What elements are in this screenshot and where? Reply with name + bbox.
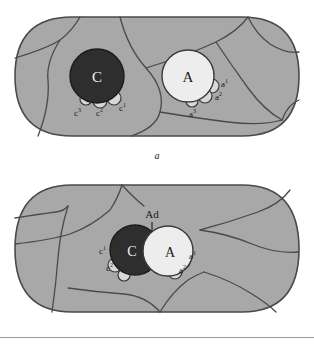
panel-b: Ad C A c1 c (0, 170, 314, 330)
cell-c-label-b: C (127, 244, 136, 259)
adhesion-label: Ad (145, 208, 159, 220)
figure-container: C A c3 c2 c1 a1 a2 a3 a (0, 0, 314, 345)
panel-a: C A c3 c2 c1 a1 a2 a3 a (0, 0, 314, 172)
cell-a-label-a: A (183, 69, 194, 85)
cell-a-label-b: A (165, 245, 176, 260)
panel-b-illustration: Ad C A c1 c (0, 170, 314, 330)
panel-a-caption: a (0, 150, 314, 161)
cell-c-label-a: C (92, 69, 102, 85)
panel-a-illustration: C A c3 c2 c1 a1 a2 a3 (0, 0, 314, 172)
figure-bottom-rule (0, 337, 314, 338)
